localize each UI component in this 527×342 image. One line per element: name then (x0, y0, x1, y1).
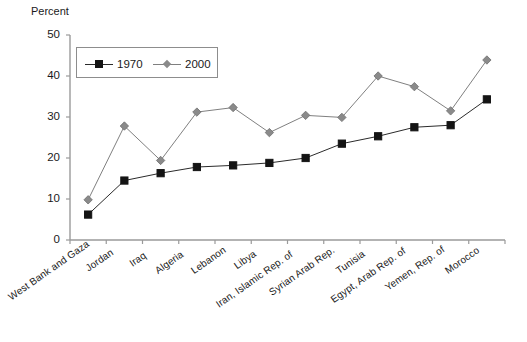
y-tick-label: 10 (34, 192, 60, 204)
y-tick-label: 40 (34, 69, 60, 81)
legend-label-1970: 1970 (117, 58, 143, 70)
legend-item-2000: 2000 (153, 56, 211, 72)
chart-legend: 1970 2000 (76, 47, 218, 78)
y-tick-label: 50 (34, 28, 60, 40)
y-tick-label: 0 (34, 233, 60, 245)
legend-swatch-2000-icon (153, 58, 181, 70)
legend-label-2000: 2000 (185, 58, 211, 70)
y-tick-label: 20 (34, 151, 60, 163)
y-tick-label: 30 (34, 110, 60, 122)
chart-figure: Percent 1970 2000 01020304050 West Bank … (0, 0, 527, 342)
legend-item-1970: 1970 (85, 56, 143, 72)
legend-swatch-1970-icon (85, 58, 113, 70)
